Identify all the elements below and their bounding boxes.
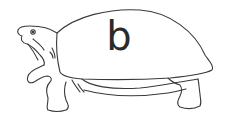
shell-letter: b — [104, 14, 134, 58]
front-leg — [27, 65, 68, 112]
turtle-illustration: b — [0, 0, 226, 121]
inner-leg — [72, 80, 84, 92]
chin-line — [28, 44, 38, 60]
back-leg — [168, 78, 201, 108]
neck-line — [33, 39, 44, 50]
plastron-lower — [84, 89, 186, 96]
shell-outline — [57, 10, 213, 80]
